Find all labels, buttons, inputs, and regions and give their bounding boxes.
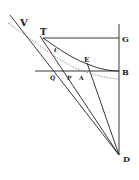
label-b: B <box>122 67 129 77</box>
label-p: P <box>67 74 72 81</box>
label-v: V <box>19 17 28 28</box>
line-ed <box>87 63 119 155</box>
curve-tb <box>43 38 119 71</box>
label-a: A <box>78 74 84 81</box>
label-t-small: t <box>54 46 57 53</box>
line-vd <box>10 15 119 155</box>
label-e: E <box>84 55 89 64</box>
label-g: G <box>122 34 129 44</box>
line-td <box>40 36 119 155</box>
geometric-diagram: V T t G E B Q P A D <box>0 0 139 180</box>
label-t: T <box>40 27 47 37</box>
label-d: D <box>123 154 130 164</box>
label-q: Q <box>50 74 55 82</box>
